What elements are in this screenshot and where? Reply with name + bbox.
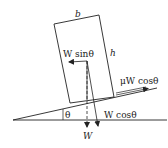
w-sin-arrow bbox=[69, 61, 87, 100]
w-cos-label: W cosθ bbox=[104, 110, 137, 120]
weight-label: W bbox=[83, 131, 93, 141]
friction-label: μW cosθ bbox=[120, 76, 158, 86]
height-label: h bbox=[110, 48, 116, 58]
w-sin-label: W sinθ bbox=[63, 49, 94, 59]
w-cos-arrow bbox=[87, 61, 98, 126]
incline-diagram: b h W sinθ μW cosθ W cosθ θ W bbox=[0, 0, 168, 148]
width-label: b bbox=[75, 9, 81, 19]
angle-label: θ bbox=[65, 110, 70, 120]
block bbox=[54, 15, 114, 103]
